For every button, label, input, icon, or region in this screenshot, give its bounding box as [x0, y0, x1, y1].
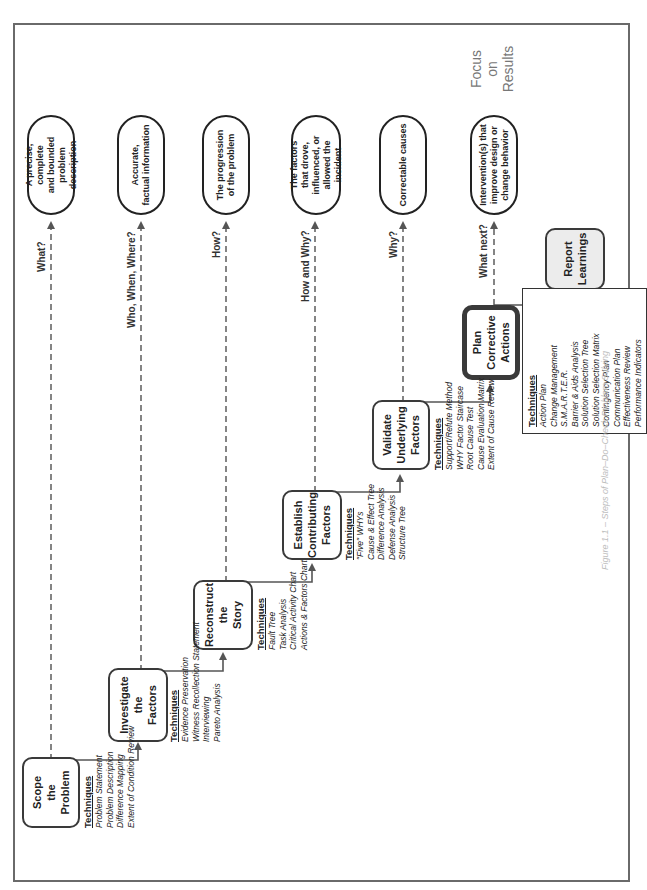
- question-how: How?: [211, 231, 222, 258]
- techniques-reconstruct: Techniques Fault Tree Task Analysis Crit…: [255, 560, 309, 650]
- question-how-and-why: How and Why?: [300, 230, 311, 302]
- step-validate-underlying-factors: ValidateUnderlyingFactors: [372, 400, 430, 470]
- techniques-investigate: Techniques Evidence Preservation Witness…: [168, 622, 222, 742]
- techniques-plan: Techniques Action Plan Change Management…: [522, 288, 647, 434]
- outcome-interventions: Intervention(s) thatimprove design orcha…: [470, 115, 518, 215]
- techniques-scope: Techniques Problem Statement Problem Des…: [82, 726, 136, 828]
- outcome-problem-description: A precise, completeand boundedproblem de…: [27, 115, 75, 215]
- techniques-establish: Techniques "Five" WHYs Cause & Effect Tr…: [343, 484, 408, 560]
- outcome-contributing-factors: The factorsthat drove,influenced, orallo…: [291, 115, 341, 215]
- question-what: What?: [36, 241, 47, 272]
- outcome-factual-information: Accurate,factual information: [117, 115, 165, 215]
- techniques-validate: Techniques Support/Refute Method WHY Fac…: [432, 378, 497, 470]
- step-plan-corrective-actions: PlanCorrectiveActions: [462, 305, 520, 380]
- step-establish-contributing-factors: EstablishContributingFactors: [282, 490, 342, 560]
- question-who-when-where: Who, When, Where?: [126, 231, 137, 328]
- outcome-correctable-causes: Correctable causes: [379, 115, 427, 215]
- question-why: Why?: [388, 231, 399, 258]
- question-what-next: What next?: [478, 224, 489, 278]
- figure-caption: Figure 1.1 – Steps of Plan–Do–Check Prob…: [600, 351, 610, 570]
- step-report-learnings: ReportLearnings: [545, 228, 605, 290]
- outcome-problem-progression: The progressionof the problem: [202, 115, 250, 215]
- step-scope-the-problem: ScopetheProblem: [22, 757, 80, 828]
- focus-on-results-label: Focus on Results: [468, 43, 516, 95]
